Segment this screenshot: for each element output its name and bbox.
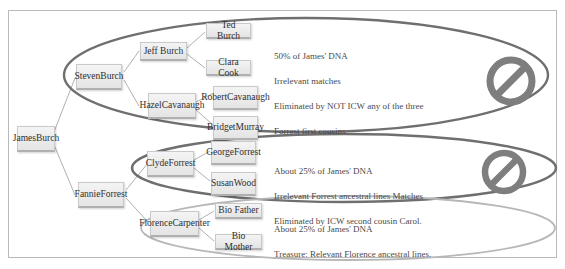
- node-jeff-burch[interactable]: Jeff Burch: [140, 42, 187, 61]
- note-line: About 25% of James' DNA: [274, 223, 431, 236]
- note-line: Eliminated by NOT ICW any of the three: [274, 100, 423, 113]
- node-steven-burch[interactable]: StevenBurch: [76, 64, 122, 90]
- node-robert-cavanaugh[interactable]: RobertCavanaugh: [213, 86, 258, 110]
- node-james-burch[interactable]: JamesBurch: [17, 126, 55, 152]
- note-line: 50% of James' DNA: [274, 50, 423, 63]
- node-florence-carpenter[interactable]: FlorenceCarpenter: [150, 211, 199, 237]
- node-clara-cook[interactable]: Clara Cook: [206, 60, 251, 76]
- node-bio-father[interactable]: Bio Father: [215, 203, 262, 219]
- node-fannie-forrest[interactable]: FannieForrest: [78, 182, 124, 208]
- cluster-note-top: 50% of James' DNA Irrelevant matches Eli…: [274, 37, 423, 150]
- node-george-forrest[interactable]: GeorgeForrest: [211, 141, 256, 165]
- node-clyde-forrest[interactable]: ClydeForrest: [147, 151, 194, 177]
- node-bridget-murray[interactable]: BridgetMurray: [213, 116, 258, 140]
- node-bio-mother[interactable]: Bio Mother: [215, 234, 262, 250]
- note-line: Irrelevant matches: [274, 75, 423, 88]
- note-line: Forrest first cousins.: [274, 125, 423, 138]
- note-line: Treasure: Relevant Florence ancestral li…: [274, 248, 431, 261]
- note-line: Irrelevant Forrest ancestral lines Match…: [274, 190, 423, 203]
- node-hazel-cavanaugh[interactable]: HazelCavanaugh: [148, 93, 196, 119]
- note-line: About 25% of James' DNA: [274, 165, 423, 178]
- node-ted-burch[interactable]: Ted Burch: [206, 23, 251, 39]
- cluster-note-bottom: About 25% of James' DNA Treasure: Releva…: [274, 210, 431, 269]
- diagram-canvas: JamesBurch StevenBurch FannieForrest Jef…: [0, 0, 565, 269]
- node-susan-wood[interactable]: SusanWood: [211, 172, 256, 196]
